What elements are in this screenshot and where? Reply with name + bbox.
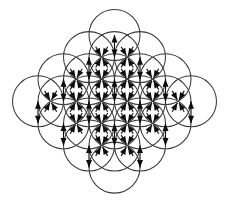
hexagonal-lattice-diagram <box>0 0 229 205</box>
figure-container <box>0 0 229 205</box>
